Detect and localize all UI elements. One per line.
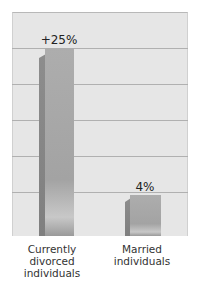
bar-divorced-value: +25% <box>36 33 82 47</box>
gridline <box>12 48 188 49</box>
gridline <box>12 120 188 121</box>
category-label-divorced: Currently divorced individuals <box>22 243 82 279</box>
bar-married-value: 4% <box>130 180 160 194</box>
category-label-line: individuals <box>110 255 174 267</box>
category-label-line: Currently <box>22 243 82 255</box>
gridline <box>12 84 188 85</box>
gridline <box>12 156 188 157</box>
category-label-line: divorced <box>22 255 82 267</box>
bar-married <box>130 195 161 236</box>
category-label-line: individuals <box>22 267 82 279</box>
gridline <box>12 192 188 193</box>
category-label-line: Married <box>110 243 174 255</box>
bar-divorced <box>45 48 74 236</box>
category-label-married: Married individuals <box>110 243 174 267</box>
